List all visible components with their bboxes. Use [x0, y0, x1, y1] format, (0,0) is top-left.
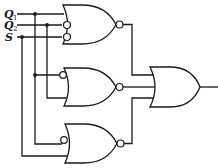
svg-text:2: 2: [13, 25, 17, 33]
bus-wires: [22, 14, 67, 156]
junction-dot: [20, 35, 24, 39]
junction-dot: [33, 73, 37, 77]
inverter-bubble: [61, 137, 68, 144]
inverter-bubble: [64, 22, 71, 29]
or-gate-4: [150, 67, 200, 107]
nor-gate-2: [60, 68, 123, 106]
bus-q1-to-gate3: [35, 75, 62, 144]
input-wires: [17, 14, 64, 37]
output-bubble: [116, 84, 123, 91]
wire-gate3-out: [124, 98, 154, 144]
junction-dot: [33, 12, 37, 16]
gate-output-wires: [123, 25, 155, 144]
output-bubble: [116, 21, 123, 28]
svg-text:S: S: [5, 31, 13, 44]
bus-s-to-gate3: [22, 37, 67, 156]
output-bubble: [117, 140, 124, 147]
bus-q1-to-gate2: [35, 14, 62, 75]
nor-gate-1: [63, 5, 123, 44]
nor-gate-3: [61, 124, 124, 163]
inverter-bubble: [64, 34, 71, 41]
inverter-bubble: [60, 72, 67, 79]
junction-dot: [45, 23, 49, 27]
wire-gate1-out: [123, 25, 154, 76]
input-label-s: S: [5, 31, 13, 44]
logic-circuit-diagram: Q 1 Q 2 S: [0, 0, 218, 168]
svg-text:1: 1: [13, 14, 17, 22]
